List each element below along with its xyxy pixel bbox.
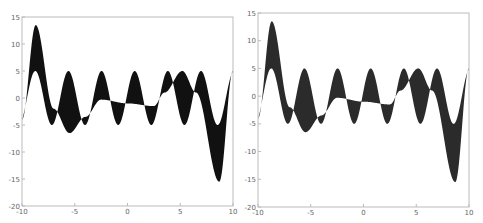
y-tick-label: 0 xyxy=(16,95,20,103)
filled-area xyxy=(22,25,233,182)
y-tick-label: 0 xyxy=(252,93,256,101)
y-tick-label: -10 xyxy=(9,149,20,157)
x-tick-label: 10 xyxy=(465,209,474,217)
chart-left: 151050-5-10-15-20-10-50510 xyxy=(9,14,238,217)
y-tick-label: 15 xyxy=(247,10,256,18)
y-tick-label: -5 xyxy=(249,120,256,128)
x-tick-label: 5 xyxy=(414,209,418,217)
y-tick-label: 10 xyxy=(247,37,256,45)
chart-right: 151050-5-10-15-20-10-50510 xyxy=(245,10,474,218)
x-tick-label: -5 xyxy=(71,208,78,216)
x-tick-label: 0 xyxy=(361,209,365,217)
y-tick-label: 5 xyxy=(16,68,20,76)
y-tick-label: 5 xyxy=(252,65,256,73)
x-tick-label: -5 xyxy=(307,209,314,217)
x-tick-label: -10 xyxy=(16,208,27,216)
filled-area xyxy=(258,21,469,182)
x-tick-label: 10 xyxy=(229,208,238,216)
figure-canvas: 151050-5-10-15-20-10-50510 151050-5-10-1… xyxy=(0,0,483,223)
y-tick-label: 10 xyxy=(11,41,20,49)
y-tick-label: 15 xyxy=(11,14,20,22)
y-tick-label: -15 xyxy=(9,176,20,184)
x-tick-label: 0 xyxy=(125,208,129,216)
x-tick-label: -10 xyxy=(252,209,263,217)
y-tick-label: -10 xyxy=(245,148,256,156)
y-tick-label: -5 xyxy=(13,122,20,130)
x-tick-label: 5 xyxy=(178,208,182,216)
y-tick-label: -15 xyxy=(245,176,256,184)
